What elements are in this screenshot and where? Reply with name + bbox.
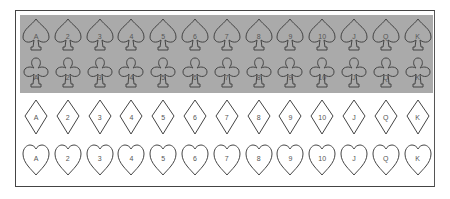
rank-label: 8: [243, 74, 275, 82]
rank-label: 4: [115, 155, 147, 163]
rank-label: 7: [211, 155, 243, 163]
diamond-6-icon: 6: [179, 98, 211, 138]
club-9-icon: 9: [274, 54, 306, 94]
rank-label: J: [338, 74, 370, 82]
rank-label: 6: [179, 74, 211, 82]
diamond-5-icon: 5: [147, 98, 179, 138]
club-5-icon: 5: [147, 54, 179, 94]
rank-label: 5: [147, 114, 179, 122]
spade-6-icon: 6: [179, 16, 211, 56]
rank-label: Q: [370, 33, 402, 41]
heart-2-icon: 2: [52, 140, 84, 180]
spade-8-icon: 8: [243, 16, 275, 56]
diamond-4-icon: 4: [115, 98, 147, 138]
diamond-8-icon: 8: [243, 98, 275, 138]
club-6-icon: 6: [179, 54, 211, 94]
rank-label: 4: [115, 33, 147, 41]
rank-label: 3: [84, 114, 116, 122]
rank-label: 9: [274, 74, 306, 82]
club-a-icon: A: [20, 54, 52, 94]
spade-a-icon: A: [20, 16, 52, 56]
rank-label: 2: [52, 155, 84, 163]
rank-label: A: [20, 155, 52, 163]
rank-label: 7: [211, 33, 243, 41]
heart-3-icon: 3: [84, 140, 116, 180]
rank-label: 5: [147, 74, 179, 82]
heart-9-icon: 9: [274, 140, 306, 180]
spade-10-icon: 10: [306, 16, 338, 56]
rank-label: 2: [52, 114, 84, 122]
rank-label: 4: [115, 114, 147, 122]
rank-label: 4: [115, 74, 147, 82]
diamond-q-icon: Q: [370, 98, 402, 138]
rank-label: A: [20, 33, 52, 41]
rank-label: 2: [52, 33, 84, 41]
rank-label: 8: [243, 33, 275, 41]
rank-label: K: [402, 33, 434, 41]
diamond-9-icon: 9: [274, 98, 306, 138]
heart-8-icon: 8: [243, 140, 275, 180]
diamond-10-icon: 10: [306, 98, 338, 138]
rank-label: 6: [179, 33, 211, 41]
rank-label: A: [20, 74, 52, 82]
heart-k-icon: K: [402, 140, 434, 180]
club-4-icon: 4: [115, 54, 147, 94]
row-diamonds: A2345678910JQK: [20, 98, 433, 138]
rank-label: J: [338, 33, 370, 41]
club-10-icon: 10: [306, 54, 338, 94]
diamond-3-icon: 3: [84, 98, 116, 138]
spade-j-icon: J: [338, 16, 370, 56]
diamond-j-icon: J: [338, 98, 370, 138]
club-7-icon: 7: [211, 54, 243, 94]
rank-label: Q: [370, 114, 402, 122]
club-3-icon: 3: [84, 54, 116, 94]
rank-label: 3: [84, 74, 116, 82]
rank-label: 6: [179, 114, 211, 122]
spade-3-icon: 3: [84, 16, 116, 56]
rank-label: 10: [306, 155, 338, 163]
diamond-k-icon: K: [402, 98, 434, 138]
spade-k-icon: K: [402, 16, 434, 56]
spade-5-icon: 5: [147, 16, 179, 56]
club-8-icon: 8: [243, 54, 275, 94]
heart-10-icon: 10: [306, 140, 338, 180]
rank-label: 7: [211, 74, 243, 82]
heart-7-icon: 7: [211, 140, 243, 180]
diamond-a-icon: A: [20, 98, 52, 138]
rank-label: K: [402, 155, 434, 163]
rank-label: 7: [211, 114, 243, 122]
spade-q-icon: Q: [370, 16, 402, 56]
rank-label: 9: [274, 155, 306, 163]
rank-label: 9: [274, 33, 306, 41]
row-spades: A2345678910JQK: [20, 16, 433, 56]
rank-label: 2: [52, 74, 84, 82]
rank-label: J: [338, 114, 370, 122]
heart-6-icon: 6: [179, 140, 211, 180]
spade-4-icon: 4: [115, 16, 147, 56]
rank-label: 3: [84, 155, 116, 163]
rank-label: 6: [179, 155, 211, 163]
heart-4-icon: 4: [115, 140, 147, 180]
rank-label: 10: [306, 33, 338, 41]
heart-q-icon: Q: [370, 140, 402, 180]
heart-j-icon: J: [338, 140, 370, 180]
diamond-7-icon: 7: [211, 98, 243, 138]
rank-label: Q: [370, 74, 402, 82]
heart-a-icon: A: [20, 140, 52, 180]
spade-7-icon: 7: [211, 16, 243, 56]
diamond-2-icon: 2: [52, 98, 84, 138]
rank-label: 5: [147, 155, 179, 163]
row-clubs: A2345678910JQK: [20, 54, 433, 94]
rank-label: K: [402, 74, 434, 82]
heart-5-icon: 5: [147, 140, 179, 180]
rank-label: 8: [243, 155, 275, 163]
spade-9-icon: 9: [274, 16, 306, 56]
rank-label: 9: [274, 114, 306, 122]
club-2-icon: 2: [52, 54, 84, 94]
row-hearts: A2345678910JQK: [20, 140, 433, 180]
rank-label: 5: [147, 33, 179, 41]
rank-label: K: [402, 114, 434, 122]
rank-label: 8: [243, 114, 275, 122]
rank-label: 3: [84, 33, 116, 41]
spade-2-icon: 2: [52, 16, 84, 56]
